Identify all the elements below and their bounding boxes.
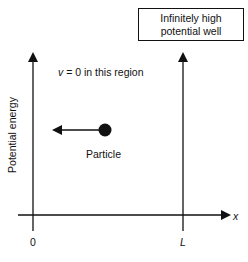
L-tick-label: L bbox=[180, 236, 186, 248]
infinite-well-label-box: Infinitely high potential well bbox=[138, 8, 244, 41]
box-line-1: Infinitely high bbox=[139, 12, 243, 25]
y-axis-label: Potential energy bbox=[6, 97, 18, 173]
particle-dot bbox=[99, 124, 112, 137]
x-axis-label: x bbox=[233, 210, 238, 222]
box-line-2: potential well bbox=[139, 25, 243, 38]
region-note-text: = 0 in this region bbox=[63, 66, 143, 78]
origin-tick-label: 0 bbox=[30, 236, 36, 248]
region-note: v = 0 in this region bbox=[58, 66, 144, 78]
particle-label: Particle bbox=[86, 148, 121, 160]
